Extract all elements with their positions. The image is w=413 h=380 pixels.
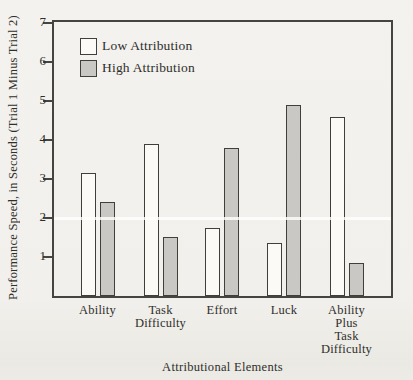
bar-high-attribution-luck [286, 105, 301, 296]
bar-high-attribution-task-difficulty [163, 237, 178, 296]
legend-swatch-low-attribution [80, 38, 97, 55]
bar-low-attribution-ability-plus-task-difficulty [330, 117, 345, 296]
bar-low-attribution-ability [81, 173, 96, 296]
scanned-figure: Performance Speed, in Seconds (Trial 1 M… [0, 0, 413, 380]
bar-high-attribution-effort [224, 148, 239, 296]
legend-item-high-attribution: High Attribution [80, 58, 195, 75]
x-axis-label: Attributional Elements [52, 360, 393, 375]
y-tick-label-3: 3 [28, 170, 46, 186]
legend-label: High Attribution [102, 60, 195, 76]
y-tick-label-5: 5 [28, 92, 46, 108]
bar-low-attribution-luck [267, 243, 282, 296]
bar-low-attribution-task-difficulty [144, 144, 159, 296]
y-axis-label: Performance Speed, in Seconds (Trial 1 M… [4, 12, 22, 304]
y-tick-label-6: 6 [28, 53, 46, 69]
scan-artifact-line [54, 217, 391, 220]
legend-label: Low Attribution [102, 38, 192, 54]
category-label-line: Difficulty [116, 317, 206, 330]
category-label-ability-plus-task-difficulty: AbilityPlusTaskDifficulty [302, 304, 392, 356]
y-tick-label-7: 7 [28, 14, 46, 30]
bar-high-attribution-ability-plus-task-difficulty [349, 263, 364, 296]
y-tick-label-1: 1 [28, 248, 46, 264]
legend-item-low-attribution: Low Attribution [80, 36, 195, 53]
y-tick-label-2: 2 [28, 209, 46, 225]
bar-low-attribution-effort [205, 228, 220, 296]
legend-swatch-high-attribution [80, 60, 97, 77]
legend: Low AttributionHigh Attribution [80, 36, 195, 80]
category-label-line: Difficulty [302, 343, 392, 356]
y-tick-label-4: 4 [28, 131, 46, 147]
